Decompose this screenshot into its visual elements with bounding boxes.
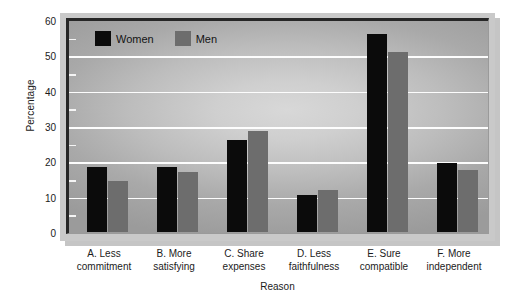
y-minor-tick: [69, 215, 76, 217]
bar-women-2: [227, 140, 247, 232]
x-tick-label-line: independent: [416, 260, 492, 273]
bar-women-5: [437, 163, 457, 232]
bar-men-0: [108, 181, 128, 232]
x-tick-label-line: F. More: [416, 247, 492, 260]
legend-swatch-icon: [95, 31, 111, 46]
x-tick-label-2: C. Shareexpenses: [206, 247, 282, 273]
x-tick-label-line: satisfying: [136, 260, 212, 273]
x-tick-label-line: commitment: [66, 260, 142, 273]
chart-legend: WomenMen: [95, 31, 229, 46]
y-tick-label: 0: [30, 228, 56, 239]
y-tick-label: 10: [30, 192, 56, 203]
y-tick-label: 50: [30, 51, 56, 62]
legend-label: Men: [196, 33, 217, 45]
y-tick-label: 60: [30, 16, 56, 27]
x-tick-label-0: A. Lesscommitment: [66, 247, 142, 273]
plot-plate: WomenMen: [60, 13, 495, 241]
y-tick-label: 40: [30, 86, 56, 97]
x-tick-label-line: compatible: [346, 260, 422, 273]
bar-chart-figure: Percentage 0102030405060 WomenMen A. Les…: [0, 0, 513, 300]
legend-swatch-icon: [175, 31, 191, 46]
bar-women-3: [297, 195, 317, 232]
y-minor-tick: [69, 109, 76, 111]
x-tick-label-line: faithfulness: [276, 260, 352, 273]
bar-men-2: [248, 131, 268, 232]
bar-women-0: [87, 167, 107, 232]
y-tick-label: 30: [30, 122, 56, 133]
x-tick-label-line: C. Share: [206, 247, 282, 260]
x-tick-label-line: A. Less: [66, 247, 142, 260]
bar-women-4: [367, 34, 387, 232]
y-minor-tick: [69, 74, 76, 76]
y-tick-label: 20: [30, 157, 56, 168]
x-tick-label-line: expenses: [206, 260, 282, 273]
bar-women-1: [157, 167, 177, 232]
gridline: [69, 233, 488, 234]
bar-men-5: [458, 170, 478, 232]
legend-entry-women: Women: [95, 31, 154, 46]
bar-men-4: [388, 52, 408, 232]
y-minor-tick: [69, 39, 76, 41]
x-tick-label-3: D. Lessfaithfulness: [276, 247, 352, 273]
x-tick-label-line: E. Sure: [346, 247, 422, 260]
x-tick-label-line: D. Less: [276, 247, 352, 260]
bar-series-container: [69, 21, 488, 233]
y-axis-tick-labels: 0102030405060: [30, 0, 56, 300]
bar-men-1: [178, 172, 198, 232]
x-tick-label-line: B. More: [136, 247, 212, 260]
x-tick-label-1: B. Moresatisfying: [136, 247, 212, 273]
legend-label: Women: [116, 33, 154, 45]
x-tick-label-5: F. Moreindependent: [416, 247, 492, 273]
x-axis-category-labels: A. LesscommitmentB. MoresatisfyingC. Sha…: [60, 247, 495, 281]
bar-men-3: [318, 190, 338, 232]
legend-entry-men: Men: [175, 31, 217, 46]
x-tick-label-4: E. Surecompatible: [346, 247, 422, 273]
y-minor-tick: [69, 145, 76, 147]
x-axis-title: Reason: [60, 281, 495, 292]
y-minor-tick: [69, 180, 76, 182]
plot-area: WomenMen: [66, 18, 489, 234]
